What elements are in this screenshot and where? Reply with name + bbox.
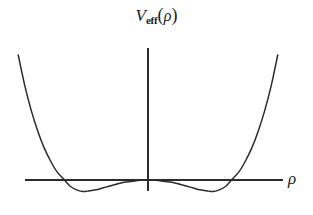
figure-container: Veff(ρ) ρ <box>0 0 313 215</box>
plot-canvas <box>0 0 313 215</box>
x-axis-label: ρ <box>288 170 296 187</box>
